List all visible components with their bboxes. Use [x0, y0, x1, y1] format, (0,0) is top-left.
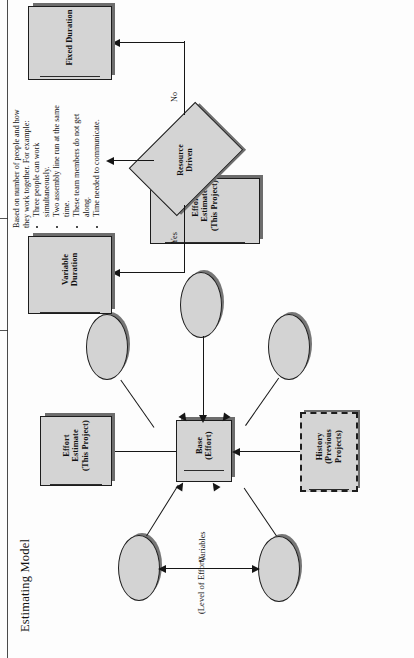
- node-variable-duration: Variable Duration: [28, 236, 112, 314]
- node-resource-driven: Resource Driven: [152, 114, 218, 206]
- note-variable-bullet-3: Time needed to communicate.: [92, 94, 102, 217]
- node-resource-driven-label: Resource Driven: [152, 114, 218, 206]
- connector-yes-horizontal: [184, 205, 185, 273]
- note-variable-bullets: Three people can work simultaneously. Tw…: [32, 94, 102, 228]
- node-variable-duration-label: Variable Duration: [61, 237, 80, 312]
- edge-label-yes: Yes: [170, 232, 179, 244]
- connector-yes-vertical: [120, 272, 185, 273]
- edge-label-no: No: [170, 92, 179, 102]
- arrowhead-yes-to-variable-duration: [112, 269, 120, 277]
- note-variable-bullet-1: Two assembly line run at the same time.: [52, 94, 72, 217]
- diagram-canvas-duration: Resource Driven Yes No Variable Duration…: [0, 0, 414, 658]
- note-variable-bullet-2: These team members do not get along.: [72, 94, 92, 217]
- arrowhead-no-to-fixed-duration: [112, 39, 120, 47]
- node-variable-duration-rule: Variable Duration: [40, 237, 101, 313]
- arrowhead-effort-to-resource-driven: [106, 157, 114, 165]
- note-variable-heading: Based on number of people and how they w…: [12, 94, 32, 228]
- note-variable-duration: Based on number of people and how they w…: [12, 94, 102, 228]
- connector-effort-to-resource-driven: [112, 160, 154, 161]
- node-fixed-duration-label: Fixed Duration: [65, 9, 74, 75]
- connector-no-vertical: [120, 42, 185, 43]
- scanned-page: Estimating Model (Level of Effort) (Dura…: [0, 0, 414, 658]
- node-fixed-duration: Fixed Duration: [28, 6, 112, 80]
- connector-no-horizontal: [184, 41, 185, 115]
- note-variable-bullet-0: Three people can work simultaneously.: [32, 94, 52, 217]
- node-fixed-duration-rule: Fixed Duration: [40, 9, 101, 76]
